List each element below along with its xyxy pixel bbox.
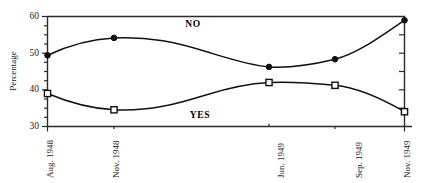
chart-canvas: 60 50 40 30 Percentage xyxy=(0,0,424,183)
data-point-no-nov-1948 xyxy=(111,35,117,41)
data-point-yes-nov-1949 xyxy=(401,109,407,115)
y-tick-labels: 60 50 40 30 xyxy=(30,11,40,131)
x-tick-label-nov-1948: Nov. 1948 xyxy=(111,140,121,178)
y-tick-label-60: 60 xyxy=(30,11,40,21)
series-no xyxy=(45,18,408,70)
x-tick-label-jun-1949: Jun. 1949 xyxy=(276,142,286,178)
series-no-line xyxy=(48,20,405,67)
y-tick-label-40: 40 xyxy=(30,84,40,94)
x-tick-label-sep-1949: Sep. 1949 xyxy=(354,142,364,179)
series-label-yes: YES xyxy=(190,110,210,120)
y-axis-ticks-right xyxy=(399,35,404,108)
data-point-yes-sep-1949 xyxy=(332,82,338,88)
y-tick-label-50: 50 xyxy=(30,48,40,58)
series-yes xyxy=(44,79,407,114)
series-label-no: NO xyxy=(185,19,200,29)
x-tick-labels: Aug. 1948 Nov. 1948 Jun. 1949 Sep. 1949 … xyxy=(45,140,412,178)
y-tick-label-30: 30 xyxy=(30,121,40,131)
x-tick-label-aug-1948: Aug. 1948 xyxy=(45,140,55,178)
x-tick-label-nov-1949: Nov. 1949 xyxy=(402,140,412,178)
x-axis-ticks xyxy=(48,124,405,132)
y-axis-ticks xyxy=(42,17,47,127)
data-point-yes-jun-1949 xyxy=(266,79,272,85)
data-point-no-aug-1948 xyxy=(45,53,51,59)
data-point-no-jun-1949 xyxy=(266,64,272,70)
chart-figure: 60 50 40 30 Percentage xyxy=(0,0,424,183)
data-point-no-nov-1949 xyxy=(402,18,408,24)
series-yes-line xyxy=(48,82,405,112)
y-axis-title: Percentage xyxy=(8,51,18,90)
data-point-yes-aug-1948 xyxy=(44,90,50,96)
chart-axes xyxy=(47,16,412,127)
data-point-no-sep-1949 xyxy=(332,56,338,62)
data-point-yes-nov-1948 xyxy=(111,107,117,113)
